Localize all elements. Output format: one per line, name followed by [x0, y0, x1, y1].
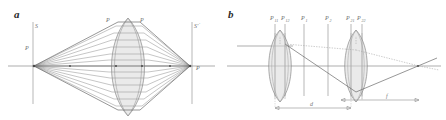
axis-marker-left — [69, 65, 71, 67]
axis-marker-right — [169, 65, 171, 67]
lens-body-a — [112, 18, 145, 116]
label-p1: P — [300, 15, 305, 21]
label-p21: P — [345, 15, 350, 21]
dimension-label-d: d — [310, 101, 314, 107]
object-point-dot — [33, 65, 36, 68]
ray-segment-past-focus — [418, 58, 437, 66]
panel-b-label: b — [228, 8, 234, 20]
label-p22-sub: 22 — [362, 18, 366, 23]
label-p2: P — [324, 15, 329, 21]
label-p11-sub: 11 — [275, 18, 279, 23]
marginal-rays-a — [34, 22, 190, 110]
label-p12-sub: 12 — [286, 18, 290, 23]
construction-ray-3 — [419, 66, 439, 70]
object-plane-label-s: S — [35, 23, 38, 29]
lens-vertex-dot-right — [141, 65, 143, 67]
image-point-label-p: P — [195, 65, 200, 71]
construction-ray-1 — [285, 44, 356, 50]
image-plane-prime-mark: ' — [199, 22, 200, 27]
dimension-d: d — [275, 101, 351, 110]
label-p1-sub: 1 — [306, 18, 308, 23]
label-p2-sub: 2 — [330, 18, 332, 23]
panel-a-label: a — [14, 8, 20, 20]
label-p12: P — [280, 15, 285, 21]
optics-figure: a S S' ' P P P P — [0, 0, 446, 120]
lens-vertex-dot-left — [115, 65, 117, 67]
label-p22: P — [356, 15, 361, 21]
panel-b: b P 11 P 12 P 1 P 2 P 21 P 22 — [223, 0, 446, 120]
label-p21-sub: 21 — [351, 18, 355, 23]
panel-a: a S S' ' P P P P — [0, 0, 223, 120]
dimension-label-f: f — [386, 93, 389, 99]
lens-label-p-left: P — [105, 17, 110, 23]
image-point-dot — [189, 65, 192, 68]
object-point-label-p: P — [24, 45, 29, 51]
principal-plane-labels: P 11 P 12 P 1 P 2 P 21 P 22 — [269, 15, 366, 23]
focus-point-dot — [417, 65, 419, 67]
label-p11: P — [269, 15, 274, 21]
